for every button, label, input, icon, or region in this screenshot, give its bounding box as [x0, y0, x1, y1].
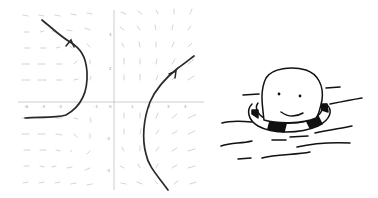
y-tick-labels: 4 2 -2 -4 — [106, 32, 112, 173]
x-tick: 4 — [184, 104, 187, 109]
figure: -6 -4 -2 -1 0 1 2 3 4 4 2 -2 -4 — [0, 0, 378, 198]
phase-portrait: -6 -4 -2 -1 0 1 2 3 4 4 2 -2 -4 — [18, 9, 204, 190]
left-trajectory — [25, 20, 87, 118]
x-tick: 0 — [109, 104, 112, 109]
y-tick: 4 — [109, 32, 112, 37]
x-tick: -6 — [24, 104, 28, 109]
x-tick: -2 — [58, 104, 62, 109]
y-tick: -2 — [106, 136, 110, 141]
x-tick: -4 — [41, 104, 45, 109]
axes — [18, 10, 204, 190]
x-tick: 1 — [131, 104, 134, 109]
y-tick: -4 — [106, 168, 110, 173]
x-tick: -1 — [94, 104, 98, 109]
x-tick: 3 — [167, 104, 170, 109]
head — [262, 68, 322, 123]
x-tick-labels: -6 -4 -2 -1 0 1 2 3 4 — [24, 104, 187, 109]
y-tick: 2 — [109, 66, 112, 71]
cartoon — [221, 68, 362, 159]
left-eye — [278, 93, 281, 96]
right-trajectory — [144, 56, 194, 190]
right-eye — [299, 95, 302, 98]
vector-field-arrowheads — [28, 58, 195, 115]
